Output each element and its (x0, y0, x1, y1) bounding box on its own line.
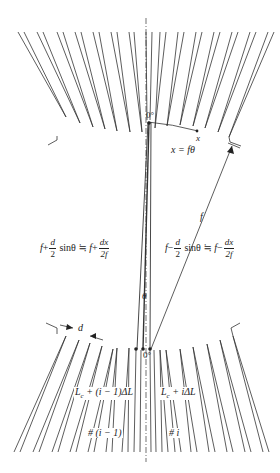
arc-end-point (196, 130, 199, 133)
fraction-denominator: 2f (224, 249, 235, 259)
ray-right (150, 122, 151, 349)
pitch-arrowhead-right (90, 333, 96, 339)
fraction-d-over-2: d2 (174, 238, 181, 259)
pitch-label: d (78, 323, 83, 333)
fraction-dx-over-2f: dx2f (99, 238, 110, 259)
bottom-dot-left (134, 347, 138, 351)
fraction-dx-over-2f: dx2f (224, 238, 235, 259)
fraction-numerator: d (174, 238, 181, 249)
left-waveguide-index: # (i − 1) (87, 428, 123, 438)
arc-relation-label: x = fθ (171, 145, 195, 155)
formula-approx: ≒ (203, 242, 211, 253)
formula-sine: sinθ (59, 242, 75, 253)
fraction-numerator: dx (224, 238, 235, 249)
formula-operator: − (168, 242, 174, 253)
focal-length-label: f (200, 212, 203, 222)
fraction-denominator: 2 (49, 249, 56, 259)
left-path-formula: f+d2 sinθ ≒ f+dx2f (40, 238, 110, 259)
right-path-formula: f−d2 sinθ ≒ f−dx2f (165, 238, 235, 259)
length-increment: + iΔL (170, 386, 196, 397)
awg-diagram-canvas (0, 0, 280, 473)
formula-operator: − (217, 242, 223, 253)
fraction-numerator: dx (99, 238, 110, 249)
formula-sine: sinθ (184, 242, 200, 253)
formula-approx: ≒ (78, 242, 86, 253)
fraction-denominator: 2f (99, 249, 110, 259)
bottom-waveguide-array (14, 323, 269, 452)
formula-operator: + (43, 242, 49, 253)
pitch-arrowhead-left (66, 324, 73, 330)
angle-label: θ (142, 292, 146, 301)
fraction-denominator: 2 (174, 249, 181, 259)
left-waveguide-length: Lc + (i − 1)ΔL (74, 387, 134, 400)
focal-length-arrowhead (227, 146, 234, 154)
length-increment: + (i − 1)ΔL (84, 386, 133, 397)
top-focus-label: 0° (146, 111, 154, 120)
fraction-numerator: d (49, 238, 56, 249)
arc-point-label: x (196, 134, 200, 143)
bottom-focus-label: 0° (143, 351, 151, 360)
fraction-d-over-2: d2 (49, 238, 56, 259)
right-waveguide-length: Lc + iΔL (160, 387, 197, 400)
top-focus-point (147, 121, 151, 125)
right-waveguide-index: # i (168, 428, 180, 438)
formula-operator: + (92, 242, 98, 253)
